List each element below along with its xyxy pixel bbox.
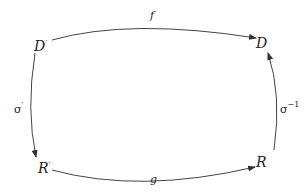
- label-g-text: g: [150, 173, 157, 186]
- node-r-prime: R′: [38, 158, 50, 175]
- node-r-prime-base: R: [38, 160, 49, 176]
- arrow-sigma-inverse: [268, 53, 277, 150]
- node-r-base: R: [256, 154, 267, 170]
- label-sigma-prime-sup: ′: [22, 100, 24, 109]
- node-d-prime: D′: [34, 36, 47, 53]
- arrow-sigma-prime: [31, 53, 36, 157]
- arrow-f: [52, 28, 256, 40]
- node-d-prime-sup: ′: [45, 38, 47, 47]
- label-f-text: f: [150, 9, 154, 22]
- node-d-prime-base: D: [34, 38, 45, 54]
- label-sigma-inverse: σ−1: [280, 99, 299, 115]
- label-sigma-prime: σ′: [14, 99, 23, 115]
- node-d-base: D: [256, 35, 267, 51]
- node-r-prime-sup: ′: [49, 160, 51, 169]
- label-sigma-inverse-sup: −1: [288, 100, 300, 109]
- label-sigma-inverse-base: σ: [280, 103, 288, 116]
- node-d: D: [256, 36, 267, 50]
- label-sigma-prime-base: σ: [14, 103, 22, 116]
- label-f: f: [150, 10, 154, 21]
- label-g: g: [150, 174, 157, 185]
- node-r: R: [256, 155, 267, 169]
